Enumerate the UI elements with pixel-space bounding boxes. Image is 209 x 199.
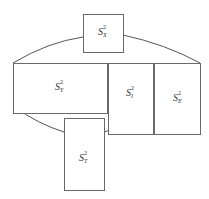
connector-arc-sx-to-se — [123, 35, 200, 63]
label-sy: S2Y — [55, 82, 65, 94]
label-sy-sup: 2 — [60, 79, 63, 85]
connector-arc-sy-to-sx — [13, 37, 83, 63]
label-st-sub: T — [84, 158, 87, 164]
label-se-sup: 2 — [178, 90, 181, 96]
label-se-sub: E — [178, 98, 182, 104]
label-si-sub: I — [131, 93, 133, 99]
label-st-sup: 2 — [84, 150, 87, 156]
label-si-sup: 2 — [131, 85, 134, 91]
label-sy-sub: Y — [60, 87, 63, 93]
label-sx: S2X — [98, 27, 108, 39]
label-sx-sub: X — [103, 32, 107, 38]
label-si: S2I — [126, 88, 136, 100]
label-st: S2T — [79, 153, 89, 165]
label-sx-sup: 2 — [103, 24, 106, 30]
label-se: S2E — [173, 93, 183, 105]
